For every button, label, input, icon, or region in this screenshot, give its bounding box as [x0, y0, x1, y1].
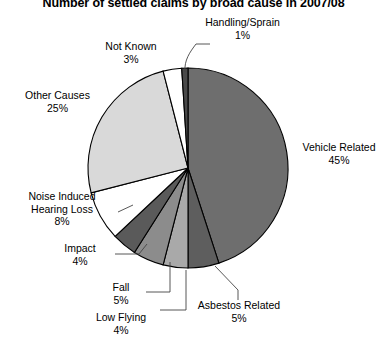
pie-chart-graphic — [0, 0, 387, 348]
pie-label-other-causes: Other Causes 25% — [9, 89, 106, 114]
pie-slices — [88, 68, 288, 268]
pie-label-vehicle-related-value: 45% — [293, 154, 385, 167]
pie-label-asbestos-related: Asbestos Related 5% — [186, 299, 292, 324]
pie-label-low-flying-value: 4% — [82, 324, 160, 337]
pie-label-handling-sprain: Handling/Sprain 1% — [185, 16, 300, 41]
pie-label-other-causes-value: 25% — [9, 102, 106, 115]
leader-line-asbestos-related — [215, 266, 238, 300]
pie-label-vehicle-related-name: Vehicle Related — [303, 141, 376, 153]
pie-label-fall-name: Fall — [113, 281, 130, 293]
pie-label-noise-induced-name-line1: Noise Induced — [28, 190, 95, 202]
pie-label-fall: Fall 5% — [96, 281, 146, 306]
pie-label-impact-name: Impact — [64, 242, 96, 254]
leader-line-fall — [146, 262, 170, 292]
pie-label-not-known-name: Not Known — [105, 40, 156, 52]
pie-label-other-causes-name: Other Causes — [25, 89, 90, 101]
pie-label-fall-value: 5% — [96, 294, 146, 307]
pie-label-not-known-value: 3% — [86, 53, 176, 66]
pie-label-not-known: Not Known 3% — [86, 40, 176, 65]
pie-label-impact: Impact 4% — [46, 242, 114, 267]
pie-label-noise-induced-value: 8% — [6, 215, 118, 228]
pie-chart-figure: Number of settled claims by broad cause … — [0, 0, 387, 348]
pie-label-asbestos-related-name: Asbestos Related — [198, 299, 280, 311]
pie-label-noise-induced-hearing-loss: Noise Induced Hearing Loss 8% — [6, 190, 118, 228]
pie-label-handling-sprain-name: Handling/Sprain — [205, 16, 280, 28]
pie-label-vehicle-related: Vehicle Related 45% — [293, 141, 385, 166]
pie-label-impact-value: 4% — [46, 255, 114, 268]
pie-label-asbestos-related-value: 5% — [186, 312, 292, 325]
leader-line-low-flying — [160, 270, 186, 310]
pie-label-noise-induced-name-line2: Hearing Loss — [6, 203, 118, 216]
pie-label-low-flying: Low Flying 4% — [82, 311, 160, 336]
pie-label-handling-sprain-value: 1% — [185, 29, 300, 42]
pie-label-low-flying-name: Low Flying — [96, 311, 146, 323]
